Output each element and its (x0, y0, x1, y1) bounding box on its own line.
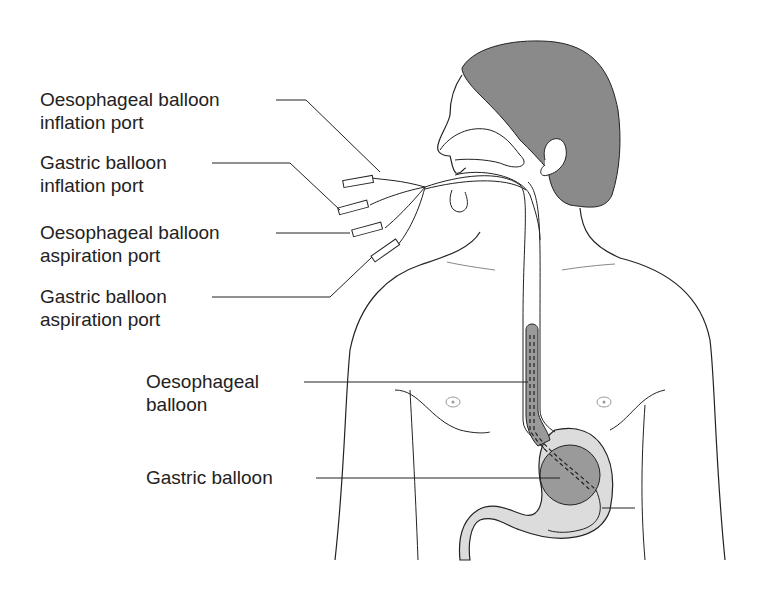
label-oesophageal-balloon: Oesophageal balloon (146, 370, 259, 416)
face-outline (438, 75, 466, 173)
nasal-cavity (440, 129, 524, 167)
label-oesophageal-balloon-inflation-port: Oesophageal balloon inflation port (40, 88, 220, 134)
hair (462, 41, 620, 207)
clavicle-right (562, 264, 615, 270)
label-line: inflation port (40, 111, 220, 134)
label-line: Gastric balloon (146, 466, 273, 489)
label-line: Oesophageal (146, 370, 259, 393)
nipple-right-dot (603, 401, 606, 404)
label-line: aspiration port (40, 244, 220, 267)
torso-right (620, 258, 725, 560)
label-line: Gastric balloon (40, 285, 167, 308)
torso-left (335, 232, 480, 560)
pectoral-right (610, 390, 665, 430)
pharynx (455, 172, 540, 240)
label-line: aspiration port (40, 308, 167, 331)
label-gastric-balloon-inflation-port: Gastric balloon inflation port (40, 151, 167, 197)
label-line: Oesophageal balloon (40, 221, 220, 244)
gastric-balloon (540, 445, 600, 505)
label-line: Oesophageal balloon (40, 88, 220, 111)
larynx (450, 190, 467, 212)
label-line: Gastric balloon (40, 151, 167, 174)
arm-left-inner (410, 390, 418, 560)
label-line: balloon (146, 393, 259, 416)
label-oesophageal-balloon-aspiration-port: Oesophageal balloon aspiration port (40, 221, 220, 267)
label-gastric-balloon: Gastric balloon (146, 466, 273, 489)
label-gastric-balloon-aspiration-port: Gastric balloon aspiration port (40, 285, 167, 331)
nipple-left-dot (452, 401, 455, 404)
ports (338, 175, 425, 261)
arm-right-inner (642, 405, 645, 560)
clavicle-left (447, 262, 495, 270)
neck-back (580, 208, 620, 258)
pectoral-left (395, 390, 490, 433)
label-line: inflation port (40, 174, 167, 197)
